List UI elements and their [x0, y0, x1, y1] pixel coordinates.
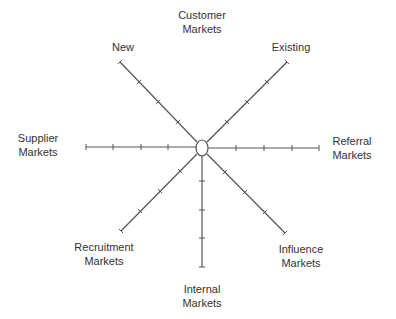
spoke-existing	[207, 60, 289, 142]
spoke-internal	[199, 156, 205, 267]
label-customer-line2: Markets	[178, 22, 226, 36]
label-supplier-markets: Supplier Markets	[18, 131, 58, 159]
spoke-referral	[208, 145, 319, 151]
label-recruitment-line2: Markets	[74, 254, 133, 268]
label-new-line1: New	[112, 40, 134, 54]
label-influence-line1: Influence	[279, 242, 324, 256]
label-existing: Existing	[272, 40, 311, 54]
label-influence-line2: Markets	[279, 256, 324, 270]
label-referral-markets: Referral Markets	[332, 134, 371, 162]
label-internal-line2: Markets	[182, 296, 221, 310]
spoke-supplier	[86, 144, 196, 150]
label-existing-line1: Existing	[272, 40, 311, 54]
label-influence-markets: Influence Markets	[279, 242, 324, 270]
center-ellipse	[196, 140, 208, 156]
spoke-influence	[207, 154, 287, 235]
label-supplier-line2: Markets	[18, 145, 58, 159]
label-new: New	[112, 40, 134, 54]
label-internal-markets: Internal Markets	[182, 282, 221, 310]
label-recruitment-line1: Recruitment	[74, 240, 133, 254]
label-customer-line1: Customer	[178, 8, 226, 22]
label-referral-line1: Referral	[332, 134, 371, 148]
label-recruitment-markets: Recruitment Markets	[74, 240, 133, 268]
spoke-recruitment	[119, 154, 197, 233]
label-customer-markets: Customer Markets	[178, 8, 226, 36]
label-internal-line1: Internal	[182, 282, 221, 296]
spoke-new	[118, 60, 197, 142]
label-supplier-line1: Supplier	[18, 131, 58, 145]
label-referral-line2: Markets	[332, 148, 371, 162]
